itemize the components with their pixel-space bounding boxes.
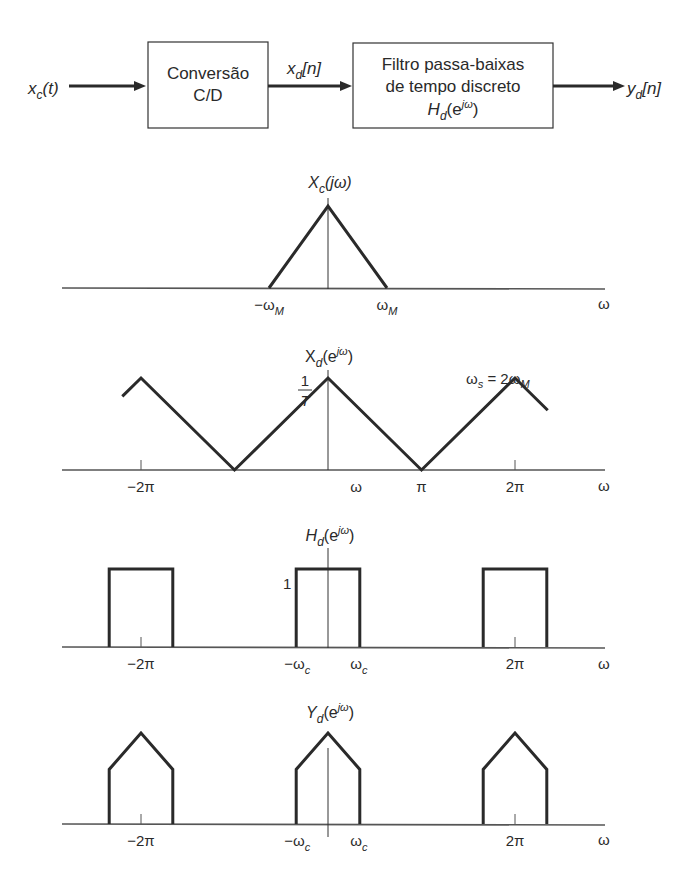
x-axis-label: ω xyxy=(598,831,610,848)
x-axis xyxy=(62,824,605,825)
x-axis-label: ω xyxy=(598,295,610,312)
plot-xc-spectrum: Xc(jω) ω −ωMωM xyxy=(62,174,610,317)
tick-label: π xyxy=(416,478,426,495)
x-axis xyxy=(62,647,605,648)
pulse-mark xyxy=(109,569,173,647)
plot-yd-output: Yd(ejω) ω −2π−ωcωc2π xyxy=(62,701,610,853)
tick-label: −2π xyxy=(127,655,154,672)
x-axis-label: ω xyxy=(598,477,610,494)
plot-hd-filter: Hd(ejω) 1 ω −2π−ωcωc2π xyxy=(62,524,610,676)
cd-block-line2: C/D xyxy=(193,86,222,105)
mid-signal-label: xd[n] xyxy=(286,59,322,82)
filter-block-line2: de tempo discreto xyxy=(385,77,520,96)
filter-block-line3: Hd(ejω) xyxy=(428,98,479,123)
tick-label: −ωM xyxy=(254,296,284,317)
series-line xyxy=(122,378,547,470)
plot-title: Yd(ejω) xyxy=(306,701,354,726)
cd-block-line1: Conversão xyxy=(167,64,249,83)
sampling-annotation: ωs = 2ωM xyxy=(466,370,530,390)
pulse-mark xyxy=(483,733,547,824)
filter-block-line1: Filtro passa-baixas xyxy=(382,55,525,74)
mid-arrowhead xyxy=(340,81,352,91)
pulse-mark xyxy=(109,733,173,824)
output-arrowhead xyxy=(613,81,625,91)
tick-label: −2π xyxy=(127,478,154,495)
x-axis xyxy=(62,288,605,289)
cd-converter-block xyxy=(148,42,268,128)
tick-label: −ωc xyxy=(284,655,310,676)
input-signal-label: xc(t) xyxy=(27,79,59,102)
plot-title: Hd(ejω) xyxy=(306,524,355,549)
level-label: 1 xyxy=(283,575,291,592)
peak-label-numerator: 1 xyxy=(301,372,309,389)
tick-label: ω xyxy=(350,478,362,495)
tick-label: 2π xyxy=(506,478,525,495)
tick-label: −2π xyxy=(127,832,154,849)
tick-label: −ωc xyxy=(284,832,310,853)
tick-label: ωM xyxy=(377,296,399,317)
plot-xd-spectrum: Xd(ejω) 1 T ωs = 2ωM ω −2πωπ2π xyxy=(62,345,610,495)
plot-title: Xd(ejω) xyxy=(305,345,353,370)
input-arrowhead xyxy=(134,81,146,91)
pulse-mark xyxy=(483,569,547,647)
figure: xc(t) Conversão C/D xd[n] Filtro passa-b… xyxy=(0,0,680,893)
tick-label: ωc xyxy=(350,832,368,853)
tick-label: 2π xyxy=(506,832,525,849)
block-diagram: xc(t) Conversão C/D xd[n] Filtro passa-b… xyxy=(27,42,662,128)
plot-title: Xc(jω) xyxy=(307,174,351,196)
x-axis-label: ω xyxy=(598,655,610,672)
tick-label: ωc xyxy=(350,655,368,676)
tick-label: 2π xyxy=(506,655,525,672)
output-signal-label: yd[n] xyxy=(626,79,662,102)
